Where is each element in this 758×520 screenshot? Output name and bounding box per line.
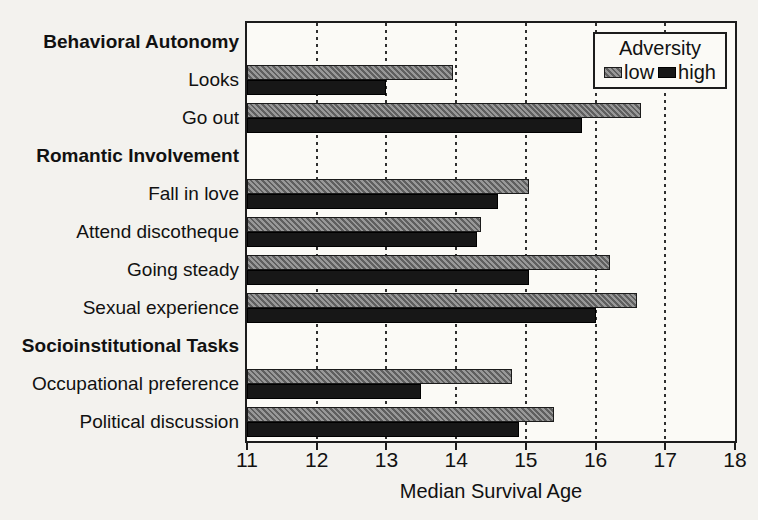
bar-low <box>247 217 481 232</box>
plot-area: Adversity low high <box>245 21 737 443</box>
bar-high <box>247 308 596 323</box>
bar-low <box>247 179 529 194</box>
bar-low <box>247 65 453 80</box>
legend-entry-low: low <box>604 61 654 83</box>
x-tick-label-11: 11 <box>225 448 269 472</box>
x-tick-label-12: 12 <box>295 448 339 472</box>
x-tick-label-15: 15 <box>504 448 548 472</box>
group-header-label: Behavioral Autonomy <box>43 29 239 55</box>
bar-high <box>247 80 386 95</box>
bar-high <box>247 118 582 133</box>
bar-low <box>247 407 554 422</box>
x-tick-label-16: 16 <box>574 448 618 472</box>
x-tick-label-14: 14 <box>434 448 478 472</box>
group-header-label: Socioinstitutional Tasks <box>22 333 239 359</box>
bar-high <box>247 270 529 285</box>
bar-low <box>247 369 512 384</box>
category-label: Going steady <box>127 257 239 283</box>
bar-low <box>247 103 641 118</box>
category-label: Occupational preference <box>32 371 239 397</box>
low-swatch-icon <box>604 67 622 78</box>
bar-high <box>247 384 421 399</box>
legend-entry-high: high <box>658 61 716 83</box>
bar-low <box>247 293 637 308</box>
x-tick-label-17: 17 <box>643 448 687 472</box>
x-axis-title: Median Survival Age <box>341 479 641 503</box>
legend-items: low high <box>595 61 725 83</box>
category-label: Political discussion <box>80 409 239 435</box>
x-tick-label-13: 13 <box>364 448 408 472</box>
category-label: Looks <box>188 67 239 93</box>
legend-entry-high-label: high <box>678 61 716 83</box>
category-label: Go out <box>182 105 239 131</box>
gridline-15 <box>525 23 527 441</box>
legend: Adversity low high <box>593 32 727 89</box>
legend-title: Adversity <box>595 36 725 60</box>
bar-high <box>247 194 498 209</box>
legend-entry-low-label: low <box>624 61 654 83</box>
bar-chart-figure: Behavioral AutonomyLooksGo outRomantic I… <box>0 0 758 520</box>
category-label: Attend discotheque <box>76 219 239 245</box>
x-tick-label-18: 18 <box>713 448 757 472</box>
bar-high <box>247 232 477 247</box>
category-label: Sexual experience <box>83 295 239 321</box>
high-swatch-icon <box>658 67 676 78</box>
category-label: Fall in love <box>148 181 239 207</box>
bar-high <box>247 422 519 437</box>
group-header-label: Romantic Involvement <box>36 143 239 169</box>
bar-low <box>247 255 610 270</box>
